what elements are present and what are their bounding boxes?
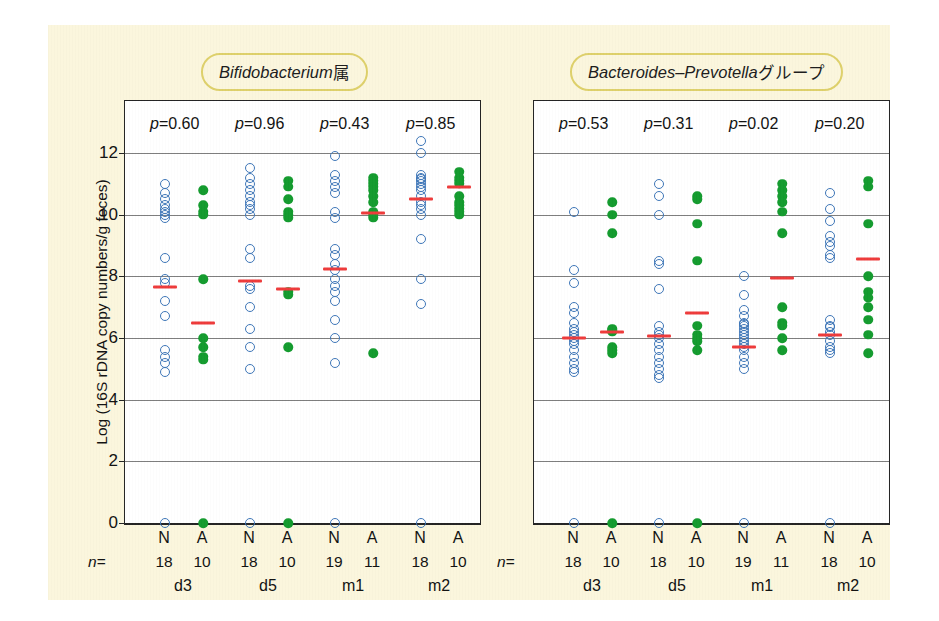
- data-point: [330, 333, 340, 343]
- data-point: [330, 296, 340, 306]
- gridline-y-2: [125, 461, 480, 462]
- x-group-letter-d3-N: N: [158, 529, 170, 547]
- data-point: [777, 228, 787, 238]
- chart-panel-bifidobacterium: Bifidobacterium属 p=0.60p=0.96p=0.43p=0.8…: [48, 25, 488, 600]
- data-point: [825, 241, 835, 251]
- x-group-n-m2-A: 10: [449, 553, 466, 571]
- y-tick-mark-8: [119, 276, 125, 277]
- data-point: [416, 136, 426, 146]
- y-tick-mark-10: [119, 215, 125, 216]
- data-point: [245, 253, 255, 263]
- data-point: [692, 518, 702, 528]
- data-point: [283, 518, 293, 528]
- data-point: [330, 358, 340, 368]
- data-point: [654, 191, 664, 201]
- gridline-y-4: [534, 400, 889, 401]
- y-tick-mark-12: [119, 153, 125, 154]
- panel-title-suffix: 属: [333, 60, 350, 84]
- data-point: [245, 284, 255, 294]
- data-point: [825, 250, 835, 260]
- data-point: [654, 179, 664, 189]
- data-point: [198, 185, 208, 195]
- data-point: [245, 342, 255, 352]
- data-point: [654, 284, 664, 294]
- median-marker: [409, 198, 433, 201]
- y-tick-mark-6: [119, 338, 125, 339]
- plot-area-bifidobacterium: p=0.60p=0.96p=0.43p=0.85 024681012: [124, 100, 481, 525]
- data-point: [777, 207, 787, 217]
- x-group-letter-m2-N: N: [823, 529, 835, 547]
- data-point: [416, 299, 426, 309]
- gridline-y-0: [125, 523, 480, 525]
- data-point: [283, 343, 293, 353]
- x-group-letter-m1-N: N: [328, 529, 340, 547]
- data-point: [863, 315, 873, 325]
- x-group-letter-d5-N: N: [652, 529, 664, 547]
- data-point: [739, 319, 749, 329]
- x-timepoint-label-m1: m1: [342, 577, 364, 595]
- x-group-letter-d5-N: N: [243, 529, 255, 547]
- plot-area-bacteroides-prevotella: p=0.53p=0.31p=0.02p=0.20: [533, 100, 890, 525]
- x-group-letter-d3-A: A: [606, 529, 617, 547]
- data-point: [416, 518, 426, 528]
- data-point: [330, 213, 340, 223]
- data-point: [654, 518, 664, 528]
- p-value-d3: p=0.53: [559, 115, 608, 133]
- x-group-letter-d5-A: A: [282, 529, 293, 547]
- data-point: [198, 275, 208, 285]
- x-timepoint-label-m1: m1: [751, 577, 773, 595]
- data-point: [198, 343, 208, 353]
- data-point: [825, 322, 835, 332]
- data-point: [330, 518, 340, 528]
- data-point: [777, 346, 787, 356]
- x-group-n-m1-A: 11: [364, 553, 380, 571]
- data-point: [416, 210, 426, 220]
- x-group-n-d3-A: 10: [602, 553, 619, 571]
- p-value-m2: p=0.20: [815, 115, 864, 133]
- p-value-m1: p=0.02: [729, 115, 778, 133]
- chart-panel-bacteroides-prevotella: Bacteroides–Prevotellaグループ p=0.53p=0.31p…: [473, 25, 890, 600]
- data-point: [825, 518, 835, 528]
- median-marker: [276, 287, 300, 290]
- data-point: [654, 373, 664, 383]
- n-equals-label: n=: [88, 553, 106, 571]
- x-group-letter-m2-A: A: [453, 529, 464, 547]
- x-group-n-d5-N: 18: [240, 553, 257, 571]
- data-point: [777, 198, 787, 208]
- data-point: [654, 259, 664, 269]
- y-tick-mark-4: [119, 400, 125, 401]
- data-point: [283, 182, 293, 192]
- data-point: [607, 518, 617, 528]
- y-tick-mark-0: [119, 523, 125, 524]
- data-point: [692, 256, 702, 266]
- gridline-y-8: [534, 276, 889, 277]
- data-point: [283, 213, 293, 223]
- data-point: [198, 210, 208, 220]
- median-marker: [770, 276, 794, 279]
- data-point: [245, 364, 255, 374]
- data-point: [416, 234, 426, 244]
- p-value-m1: p=0.43: [320, 115, 369, 133]
- x-group-letter-m1-A: A: [367, 529, 378, 547]
- y-tick-mark-2: [119, 461, 125, 462]
- x-group-n-m2-A: 10: [858, 553, 875, 571]
- data-point: [160, 367, 170, 377]
- data-point: [607, 228, 617, 238]
- data-point: [569, 518, 579, 528]
- data-point: [416, 182, 426, 192]
- data-point: [607, 349, 617, 359]
- data-point: [863, 219, 873, 229]
- figure-root: Bifidobacterium属 p=0.60p=0.96p=0.43p=0.8…: [0, 0, 939, 621]
- y-axis-label-text: Log (16S rDNA copy numbers/g feces): [93, 179, 111, 444]
- data-point: [160, 213, 170, 223]
- data-point: [283, 290, 293, 300]
- data-point: [416, 148, 426, 158]
- data-point: [454, 210, 464, 220]
- pvalue-band-right: p=0.53p=0.31p=0.02p=0.20: [534, 101, 889, 153]
- data-point: [863, 182, 873, 192]
- p-value-d5: p=0.96: [235, 115, 284, 133]
- data-point: [160, 296, 170, 306]
- x-group-n-d5-A: 10: [687, 553, 704, 571]
- data-point: [863, 302, 873, 312]
- pvalue-band-left: p=0.60p=0.96p=0.43p=0.85: [125, 101, 480, 153]
